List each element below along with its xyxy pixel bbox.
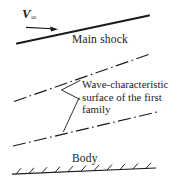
wave-characteristic-label-line1: Wave-characteristic [82, 78, 168, 91]
body-label: Body [72, 152, 98, 166]
freestream-velocity-label: V∞ [22, 6, 36, 23]
main-shock-label: Main shock [72, 33, 128, 47]
technical-diagram-figure: V∞ Main shock Wave-characteristic surfac… [0, 0, 182, 184]
wave-characteristic-label-line2: surface of the first [82, 91, 168, 104]
wave-characteristic-label-line3: family [82, 103, 168, 116]
leader-lower [64, 98, 80, 132]
leader-lines [62, 81, 81, 132]
freestream-arrow [26, 26, 58, 31]
lower-characteristic-line [13, 112, 157, 146]
freestream-velocity-subscript: ∞ [31, 13, 36, 22]
wave-characteristic-label: Wave-characteristic surface of the first… [82, 78, 168, 116]
freestream-velocity-symbol: V [22, 6, 31, 21]
